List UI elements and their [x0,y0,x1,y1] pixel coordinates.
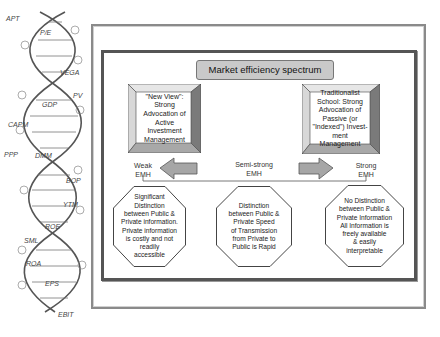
weak-form-line: between Public & [121,210,178,218]
weak-form-line: readily [121,243,178,251]
weak-form-text: Significant Distinction between Public &… [121,192,178,261]
strong-emh-label: Strong EMH [348,162,384,179]
weak-emh-label: Weak EMH [127,162,159,179]
weak-emh-line: EMH [127,171,159,180]
weak-form-line: Distinction [121,202,178,210]
weak-form-line: is costly and not [121,235,178,243]
weak-emh-line: Weak [127,162,159,171]
strong-form-line: No Distinction [337,197,392,205]
semi-strong-emh-line: Semi-strong [226,161,282,170]
strong-form-text: No Distinction between Public & Private … [333,191,396,261]
weak-form-line: Private information. [121,218,178,226]
semi-strong-emh-label: Semi-strong EMH [226,161,282,178]
strong-form-line: between Public & [337,205,392,213]
semi-strong-form-line: between Public & [229,210,280,218]
semi-strong-form-line: Private Speed [229,218,280,226]
semi-strong-form-line: Public is Rapid [229,243,280,251]
strong-form-octagon: No Distinction between Public & Private … [325,185,404,267]
weak-form-line: accessible [121,251,178,259]
right-arrow-icon [299,158,333,179]
weak-form-octagon: Significant Distinction between Public &… [113,186,186,267]
weak-form-line: Private information [121,227,178,235]
semi-strong-form-text: Distinction between Public & Private Spe… [224,192,284,261]
strong-form-line: Private Information [337,214,392,222]
strong-emh-line: Strong [348,162,384,171]
strong-form-line: interpretable [337,247,392,255]
semi-strong-form-line: of Transmission [229,227,280,235]
left-arrow-icon [160,158,197,179]
semi-strong-emh-line: EMH [226,170,282,179]
semi-strong-form-octagon: Distinction between Public & Private Spe… [216,186,292,267]
semi-strong-form-line: from Private to [229,235,280,243]
strong-form-line: All Information is [337,222,392,230]
strong-emh-line: EMH [348,171,384,180]
semi-strong-form-line: Distinction [229,202,280,210]
weak-form-line: Significant [121,193,178,201]
strong-form-line: & easily [337,238,392,246]
strong-form-line: freely available [337,230,392,238]
